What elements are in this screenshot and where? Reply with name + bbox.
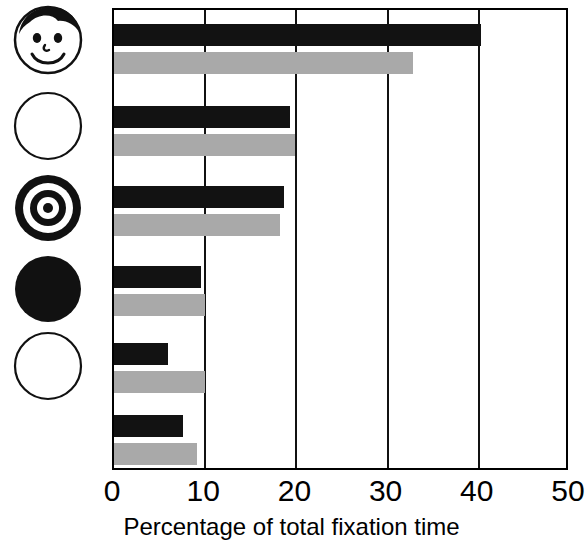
bar-blank-circle-outline-black	[114, 106, 290, 128]
gridline-40	[478, 10, 480, 468]
x-axis-tick-labels: 01020304050	[0, 474, 583, 514]
gridline-10	[204, 10, 206, 468]
face-icon	[12, 4, 84, 76]
x-tick-label-10: 10	[187, 474, 220, 508]
x-axis-title: Percentage of total fixation time	[0, 512, 583, 542]
stimulus-icon-column	[0, 0, 108, 470]
filled-black-circle-icon	[12, 253, 84, 325]
bar-blank-circle-outline-gray	[114, 134, 295, 156]
bar-plain-circle-outline-black	[114, 343, 168, 365]
x-tick-label-20: 20	[278, 474, 311, 508]
blank-circle-outline-icon	[12, 90, 84, 162]
bar-unlabeled-gray	[114, 443, 197, 465]
bullseye-icon	[12, 172, 84, 244]
bar-bullseye-black	[114, 186, 284, 208]
bar-bullseye-gray	[114, 214, 280, 236]
x-tick-label-40: 40	[460, 474, 493, 508]
bar-filled-black-circle-gray	[114, 294, 205, 316]
bar-face-black	[114, 24, 481, 46]
bar-face-gray	[114, 52, 413, 74]
bar-filled-black-circle-black	[114, 266, 201, 288]
plot-area	[112, 8, 568, 470]
plain-circle-outline-icon	[12, 330, 84, 402]
x-tick-label-30: 30	[369, 474, 402, 508]
x-tick-label-0: 0	[104, 474, 121, 508]
gridline-30	[387, 10, 389, 468]
x-tick-label-50: 50	[551, 474, 584, 508]
bar-unlabeled-black	[114, 415, 183, 437]
gridline-20	[295, 10, 297, 468]
bar-plain-circle-outline-gray	[114, 371, 205, 393]
